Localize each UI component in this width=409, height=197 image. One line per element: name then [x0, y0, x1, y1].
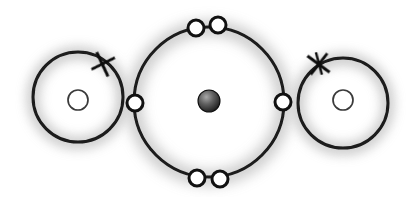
nucleus-right	[333, 90, 353, 110]
electron-top-right[interactable]	[210, 17, 226, 33]
electron-bottom-left[interactable]	[189, 170, 205, 186]
bonding-diagram-canvas: Dot-and-cross bonding diagram Central at…	[0, 0, 409, 197]
nucleus-center	[198, 90, 220, 112]
electron-left[interactable]	[127, 95, 143, 111]
bonding-diagram-svg	[0, 0, 409, 197]
electron-top-left[interactable]	[188, 20, 204, 36]
atom-left-group[interactable]	[33, 51, 123, 142]
electron-right[interactable]	[275, 94, 291, 110]
nucleus-left	[68, 90, 88, 110]
electron-bottom-right[interactable]	[212, 171, 228, 187]
